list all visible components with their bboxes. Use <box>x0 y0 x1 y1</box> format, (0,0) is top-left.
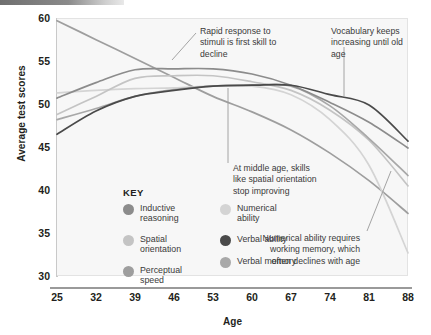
series-line <box>57 84 408 141</box>
annotation-vocabulary: Vocabulary keeps increasing until old ag… <box>331 26 419 60</box>
legend-item-label: Perceptual speed <box>140 265 202 286</box>
x-axis-tick: 81 <box>349 291 389 303</box>
legend-item[interactable]: Perceptual speed <box>123 265 202 286</box>
legend-swatch-icon <box>220 204 231 215</box>
legend-item-label: Inductive reasoning <box>140 203 202 224</box>
x-axis-tick: 46 <box>154 291 194 303</box>
legend-swatch-icon <box>123 266 134 277</box>
legend-swatch-icon <box>123 235 134 246</box>
y-axis-tick: 30 <box>24 270 50 282</box>
y-axis-tick: 50 <box>24 98 50 110</box>
legend-item[interactable]: Inductive reasoning <box>123 203 202 224</box>
legend-item-label: Spatial orientation <box>140 234 202 255</box>
y-axis-tick: 35 <box>24 227 50 239</box>
x-axis-tick: 60 <box>232 291 272 303</box>
legend-column-left: Inductive reasoningSpatial orientationPe… <box>123 203 202 285</box>
x-axis-tick: 39 <box>115 291 155 303</box>
series-line <box>57 68 408 148</box>
x-axis-tick: 88 <box>388 291 428 303</box>
series-line <box>57 84 408 175</box>
legend-item[interactable]: Spatial orientation <box>123 234 202 255</box>
legend-item[interactable]: Numerical ability <box>220 203 299 224</box>
y-axis-tick: 55 <box>24 55 50 67</box>
x-axis-tick: 53 <box>193 291 233 303</box>
x-axis-tick: 74 <box>310 291 350 303</box>
y-axis-tick-group: 60555045403530 <box>20 0 50 335</box>
annotation-numerical: Numerical ability requires working memor… <box>253 233 360 267</box>
y-axis-tick: 40 <box>24 184 50 196</box>
legend-swatch-icon <box>123 204 134 215</box>
y-axis-tick: 60 <box>24 12 50 24</box>
x-axis-label: Age <box>57 316 408 327</box>
x-axis-tick: 25 <box>37 291 77 303</box>
x-axis-tick: 67 <box>271 291 311 303</box>
chart-figure: Average test scores 60555045403530 KEY I… <box>0 0 431 335</box>
y-axis-tick: 45 <box>24 141 50 153</box>
x-axis-line <box>50 287 412 289</box>
legend-item-label: Numerical ability <box>237 203 299 224</box>
x-axis-tick: 32 <box>76 291 116 303</box>
legend-swatch-icon <box>220 235 231 246</box>
annotation-rapid-response: Rapid response to stimuli is first skill… <box>200 26 292 60</box>
legend-swatch-icon <box>220 257 231 268</box>
annotation-middle-age: At middle age, skills like spatial orien… <box>233 163 317 197</box>
